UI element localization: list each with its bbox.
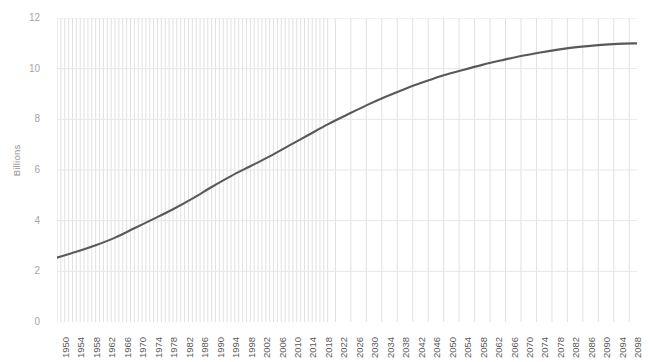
x-axis-tick-label: 2034 <box>386 337 396 358</box>
y-axis-tick-label: 0 <box>16 317 40 327</box>
x-axis-tick-label: 2042 <box>417 337 427 358</box>
x-axis-tick-label: 2046 <box>432 337 442 358</box>
x-axis-tick-labels: 1950195419581962196619701974197819821986… <box>57 324 637 362</box>
chart-title-remnant <box>196 0 296 5</box>
x-axis-tick-label: 2074 <box>540 337 550 358</box>
x-axis-tick-label: 2098 <box>633 337 643 358</box>
plot-svg <box>57 18 637 322</box>
x-axis-tick-label: 1994 <box>231 337 241 358</box>
x-axis-tick-label: 2010 <box>293 337 303 358</box>
y-axis-tick-label: 8 <box>16 114 40 124</box>
x-axis-tick-label: 2050 <box>448 337 458 358</box>
x-axis-tick-label: 1954 <box>76 337 86 358</box>
y-axis-tick-labels: 121086420 <box>10 0 40 362</box>
x-axis-tick-label: 2006 <box>278 337 288 358</box>
x-axis-tick-label: 2038 <box>401 337 411 358</box>
x-axis-tick-label: 2094 <box>618 337 628 358</box>
x-axis-tick-label: 1974 <box>154 337 164 358</box>
x-axis-tick-label: 1990 <box>216 337 226 358</box>
y-axis-tick-label: 4 <box>16 216 40 226</box>
x-axis-tick-label: 1970 <box>138 337 148 358</box>
x-axis-tick-label: 2062 <box>494 337 504 358</box>
y-axis-tick-label: 10 <box>16 64 40 74</box>
x-axis-tick-label: 1962 <box>107 337 117 358</box>
x-axis-tick-label: 2030 <box>370 337 380 358</box>
x-axis-tick-label: 1966 <box>123 337 133 358</box>
x-axis-tick-label: 2026 <box>355 337 365 358</box>
x-axis-tick-label: 2058 <box>479 337 489 358</box>
y-axis-tick-label: 2 <box>16 266 40 276</box>
x-axis-tick-label: 2086 <box>587 337 597 358</box>
population-line-chart: Billions 121086420 195019541958196219661… <box>0 0 650 362</box>
x-axis-tick-label: 2082 <box>571 337 581 358</box>
x-axis-tick-label: 1958 <box>92 337 102 358</box>
x-axis-tick-label: 2002 <box>262 337 272 358</box>
x-axis-tick-label: 1978 <box>169 337 179 358</box>
x-axis-tick-label: 2090 <box>602 337 612 358</box>
x-axis-tick-label: 2070 <box>525 337 535 358</box>
x-axis-tick-label: 2054 <box>463 337 473 358</box>
y-axis-tick-label: 12 <box>16 13 40 23</box>
x-axis-tick-label: 2018 <box>324 337 334 358</box>
x-axis-tick-label: 1982 <box>185 337 195 358</box>
plot-area <box>57 18 637 322</box>
x-axis-tick-label: 2022 <box>339 337 349 358</box>
x-axis-tick-label: 2014 <box>308 337 318 358</box>
x-axis-tick-label: 2066 <box>510 337 520 358</box>
x-axis-tick-label: 1950 <box>61 337 71 358</box>
horizontal-gridlines <box>57 18 637 271</box>
x-axis-tick-label: 1986 <box>200 337 210 358</box>
population-series-line <box>57 43 637 257</box>
y-axis-tick-label: 6 <box>16 165 40 175</box>
x-axis-tick-label: 1998 <box>247 337 257 358</box>
x-axis-tick-label: 2078 <box>556 337 566 358</box>
